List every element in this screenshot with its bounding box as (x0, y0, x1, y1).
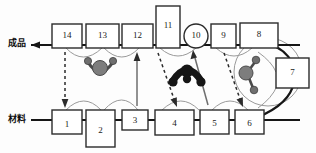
node-box-1[interactable] (52, 110, 82, 134)
node-box-13[interactable] (86, 24, 119, 48)
rail-label-material: 材料 (8, 112, 26, 125)
molecule-gray-left-atom-a (84, 57, 91, 64)
arc-11-10 (160, 48, 196, 56)
arc-6-7 (258, 86, 277, 108)
connector-9-to-6 (224, 53, 243, 107)
molecule-gray-left (84, 57, 116, 75)
node-box-4[interactable] (155, 110, 194, 135)
molecule-dark-middle-atom-c (183, 75, 191, 83)
molecule-gray-left-atom-main (93, 61, 108, 76)
molecule-gray-right-atom-a (252, 56, 260, 64)
connector-3-to-12 (134, 52, 141, 106)
molecule-gray-left-atom-b (109, 57, 116, 64)
connector-3-to-12-arrowhead (134, 52, 141, 61)
diagram-canvas: 成品 材料 14 13 12 11 10 9 8 7 1 2 3 4 5 6 (0, 0, 316, 153)
molecule-dark-middle (168, 65, 205, 87)
rail-finished-arrowhead (31, 41, 40, 48)
molecule-dark-middle-atom-b (196, 77, 205, 86)
node-box-14[interactable] (52, 24, 82, 48)
node-box-9[interactable] (211, 24, 236, 48)
connector-9-to-6-line (224, 53, 240, 99)
rail-arrowheads (31, 41, 40, 48)
connector-11-to-4-arrowhead (171, 97, 178, 107)
arc-13-12 (104, 48, 139, 57)
node-box-6[interactable] (235, 110, 264, 134)
node-box-7[interactable] (276, 58, 309, 88)
arc-4-5 (162, 101, 199, 110)
molecule-gray-right-atom-main (239, 66, 253, 80)
node-boxes-right (276, 58, 309, 88)
arc-1-2 (66, 101, 101, 110)
node-boxes-bottom (52, 110, 264, 147)
arc-14-13 (66, 48, 102, 57)
connector-14-to-1-arrowhead (62, 99, 69, 108)
node-box-5[interactable] (200, 110, 229, 134)
molecule-gray-right (239, 56, 260, 94)
rail-label-finished: 成品 (8, 36, 26, 49)
arc-2-3 (104, 100, 138, 110)
node-box-11[interactable] (156, 6, 180, 48)
rail-lines (31, 45, 300, 120)
connector-14-to-1 (62, 52, 69, 108)
arc-9-8 (216, 48, 252, 56)
node-circle-10[interactable] (184, 24, 208, 48)
arc-8-7 (258, 52, 276, 72)
diagram-svg (0, 0, 316, 153)
molecule-dark-middle-atom-a (168, 77, 177, 86)
connector-11-to-4-line (158, 53, 174, 99)
node-box-8[interactable] (240, 23, 278, 48)
node-box-2[interactable] (86, 110, 115, 147)
node-box-3[interactable] (122, 110, 148, 130)
molecule-gray-right-atom-b (250, 86, 258, 94)
node-box-12[interactable] (122, 24, 153, 48)
node-boxes-top (52, 6, 278, 48)
